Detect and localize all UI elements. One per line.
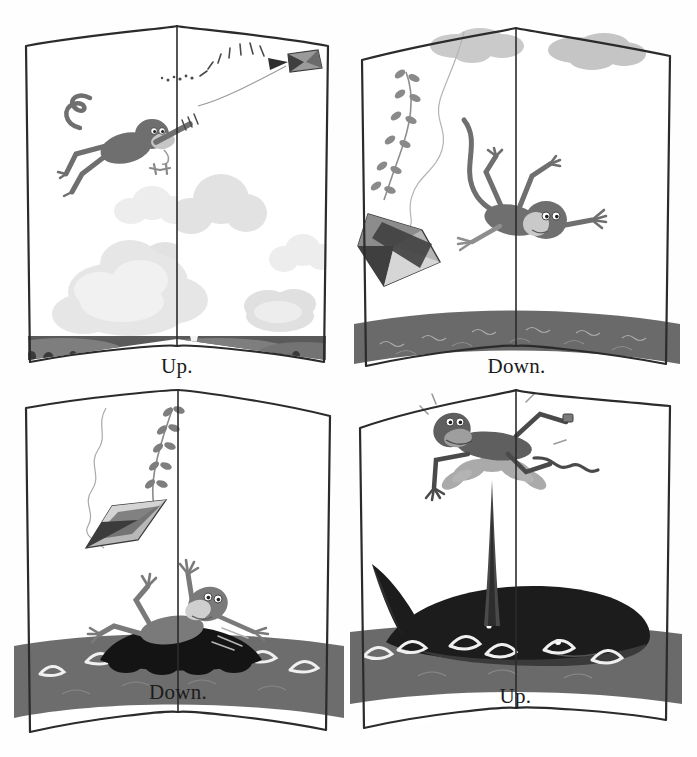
kite-string bbox=[198, 66, 286, 106]
vine-leaves bbox=[369, 68, 422, 195]
panel-down-falling: Down. bbox=[360, 24, 673, 374]
falling-kite bbox=[86, 500, 166, 548]
panel-caption: Up. bbox=[22, 354, 332, 379]
falling-monkey bbox=[458, 120, 606, 250]
panel-up-kite: Up. bbox=[22, 24, 332, 374]
panel-up-spout: Up. bbox=[358, 388, 673, 738]
kite-tail-vine bbox=[153, 410, 172, 506]
monkey-on-whale bbox=[88, 560, 268, 650]
falling-kite bbox=[358, 214, 440, 286]
kite-tail-vine bbox=[384, 72, 411, 200]
picture-book-page: Up. bbox=[0, 0, 697, 757]
kite-and-monkey-layer bbox=[22, 24, 332, 374]
flying-monkey bbox=[58, 96, 198, 196]
kite-and-monkey-layer bbox=[360, 24, 673, 374]
kite-tail-dashes bbox=[200, 43, 264, 76]
vine-leaves bbox=[143, 405, 186, 491]
kite-tail-specks bbox=[161, 75, 194, 82]
kite-in-sky bbox=[268, 50, 322, 72]
motion-lines bbox=[212, 628, 248, 650]
panel-down-whale: Down. bbox=[22, 388, 334, 738]
panel-caption: Down. bbox=[360, 354, 673, 379]
monkey-on-spout bbox=[420, 394, 598, 500]
panel-caption: Down. bbox=[22, 680, 334, 705]
panel-caption: Up. bbox=[358, 684, 673, 709]
kite-string bbox=[408, 32, 464, 230]
